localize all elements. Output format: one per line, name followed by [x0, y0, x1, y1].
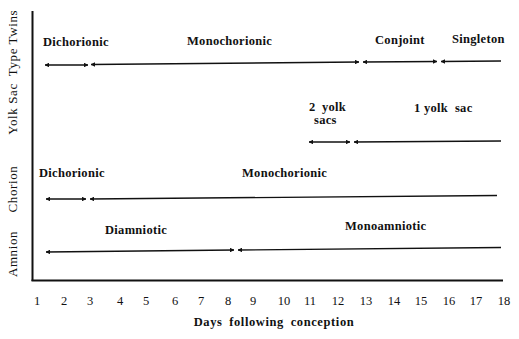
x-tick: 9	[250, 294, 256, 308]
segment-label-two-yolk-sacs-line1: 2 yolk	[309, 100, 346, 114]
x-tick: 12	[332, 294, 345, 308]
segment-label-dichorionic: Dichorionic	[39, 166, 105, 180]
x-tick: 4	[117, 294, 124, 308]
segment-label-monochorionic: Monochorionic	[242, 166, 327, 180]
x-tick: 13	[360, 294, 373, 308]
row-yolk-sac: 2 yolk sacs 1 yolk sac	[309, 100, 501, 142]
row-type-twins: Dichorionic Monochorionic Conjoint Singl…	[43, 32, 505, 65]
row-label-amnion: Amnion	[5, 231, 20, 277]
x-axis-ticks: 1 2 3 4 5 6 7 8 9 10 11 12 13 14 15 16 1…	[34, 294, 510, 308]
line-one-yolk-sac	[354, 141, 501, 142]
segment-label-one-yolk-sac: 1 yolk sac	[414, 101, 473, 115]
x-tick: 18	[498, 294, 511, 308]
row-label-type-twins: Type Twins	[5, 10, 20, 76]
segment-label-conjoint: Conjoint	[375, 33, 425, 47]
twinning-timeline-diagram: Type Twins Yolk Sac Chorion Amnion Dicho…	[0, 0, 519, 339]
row-chorion: Dichorionic Monochorionic	[39, 166, 497, 199]
x-axis-title: Days following conception	[194, 315, 355, 329]
segment-label-monochorionic: Monochorionic	[187, 34, 272, 48]
line-monochorionic	[90, 196, 497, 200]
segment-label-dichorionic: Dichorionic	[43, 35, 109, 49]
x-tick: 6	[172, 294, 178, 308]
x-tick: 3	[87, 294, 93, 308]
x-tick: 1	[34, 294, 40, 308]
segment-label-singleton: Singleton	[452, 32, 505, 46]
row-labels: Type Twins Yolk Sac Chorion Amnion	[5, 10, 20, 277]
line-monoamniotic	[238, 248, 501, 251]
arrow-monochorionic	[91, 62, 359, 65]
segment-label-diamniotic: Diamniotic	[105, 223, 167, 237]
x-tick: 7	[198, 294, 204, 308]
x-tick: 10	[278, 294, 291, 308]
segment-label-monoamniotic: Monoamniotic	[345, 219, 427, 233]
arrow-conjoint	[363, 62, 437, 63]
row-amnion: Diamniotic Monoamniotic	[46, 219, 501, 252]
x-tick: 2	[61, 294, 67, 308]
x-tick: 8	[225, 294, 231, 308]
line-singleton	[441, 61, 501, 62]
x-tick: 17	[470, 294, 483, 308]
x-tick: 11	[304, 294, 316, 308]
x-tick: 16	[443, 294, 456, 308]
row-label-chorion: Chorion	[5, 166, 20, 213]
arrow-diamniotic	[46, 250, 234, 252]
x-tick: 15	[415, 294, 428, 308]
row-label-yolk-sac: Yolk Sac	[5, 83, 20, 135]
segment-label-two-yolk-sacs-line2: sacs	[314, 113, 337, 127]
x-tick: 5	[143, 294, 149, 308]
x-tick: 14	[388, 294, 401, 308]
